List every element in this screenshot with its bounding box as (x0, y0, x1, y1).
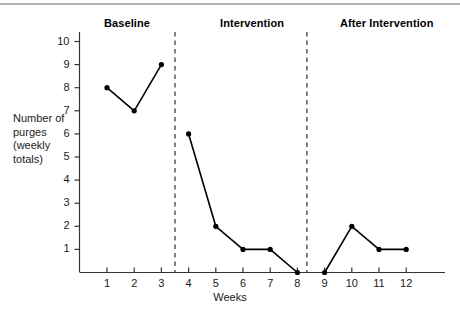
data-point-week-5 (213, 224, 218, 229)
y-tick-label-3: 3 (52, 196, 70, 208)
x-tick-label-8: 8 (286, 277, 308, 289)
y-axis-ticks (75, 42, 80, 250)
series-line-after-intervention (325, 226, 407, 272)
y-tick-label-2: 2 (52, 219, 70, 231)
x-tick-label-5: 5 (205, 277, 227, 289)
y-tick-label-9: 9 (52, 58, 70, 70)
data-point-week-9 (322, 270, 327, 275)
x-tick-label-10: 10 (341, 277, 363, 289)
data-point-week-1 (104, 85, 109, 90)
y-tick-label-5: 5 (52, 150, 70, 162)
data-point-week-3 (159, 62, 164, 67)
y-tick-label-7: 7 (52, 104, 70, 116)
series-markers (104, 62, 408, 275)
x-axis-ticks (107, 268, 406, 273)
x-tick-label-3: 3 (150, 277, 172, 289)
x-tick-label-6: 6 (232, 277, 254, 289)
data-point-week-11 (376, 247, 381, 252)
data-point-week-7 (268, 247, 273, 252)
y-tick-label-1: 1 (52, 242, 70, 254)
series-lines (107, 65, 406, 273)
data-point-week-2 (132, 108, 137, 113)
x-tick-label-1: 1 (96, 277, 118, 289)
series-line-baseline (107, 65, 161, 111)
data-point-week-8 (295, 270, 300, 275)
x-tick-label-11: 11 (368, 277, 390, 289)
y-tick-label-10: 10 (52, 35, 70, 47)
chart-figure: Baseline Intervention After Intervention… (0, 0, 460, 320)
y-tick-label-4: 4 (52, 173, 70, 185)
x-tick-label-12: 12 (395, 277, 417, 289)
y-tick-label-6: 6 (52, 127, 70, 139)
data-point-week-10 (349, 224, 354, 229)
y-tick-label-8: 8 (52, 81, 70, 93)
data-point-week-4 (186, 131, 191, 136)
x-tick-label-7: 7 (259, 277, 281, 289)
axis-lines (80, 32, 446, 273)
data-point-week-6 (240, 247, 245, 252)
x-tick-label-4: 4 (178, 277, 200, 289)
data-point-week-12 (404, 247, 409, 252)
x-tick-label-9: 9 (314, 277, 336, 289)
x-tick-label-2: 2 (123, 277, 145, 289)
